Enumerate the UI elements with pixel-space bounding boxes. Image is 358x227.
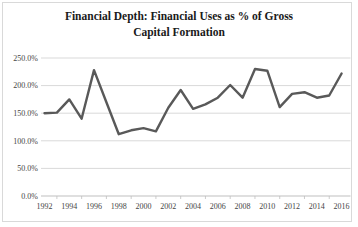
x-tick-label: 2014	[309, 202, 325, 211]
x-tick-label: 1992	[37, 202, 53, 211]
x-tick-label: 2000	[136, 202, 152, 211]
data-line	[45, 69, 342, 134]
x-tick-label: 1994	[61, 202, 77, 211]
y-tick-label: 50.0%	[17, 164, 38, 173]
x-tick-label: 1996	[86, 202, 102, 211]
x-tick-label: 2010	[259, 202, 275, 211]
chart: Financial Depth: Financial Uses as % of …	[0, 0, 358, 227]
x-tick-label: 2006	[210, 202, 226, 211]
y-tick-label: 250.0%	[13, 54, 38, 63]
x-tick-label: 2002	[160, 202, 176, 211]
y-tick-label: 200.0%	[13, 81, 38, 90]
x-tick-label: 2012	[284, 202, 300, 211]
x-tick-label: 2016	[334, 202, 350, 211]
x-tick-label: 2008	[235, 202, 251, 211]
plot-svg: 250.0%200.0%150.0%100.0%50.0%0.0%1992199…	[0, 0, 358, 227]
y-tick-label: 100.0%	[13, 137, 38, 146]
y-tick-label: 0.0%	[21, 192, 38, 201]
x-tick-label: 1998	[111, 202, 127, 211]
x-tick-label: 2004	[185, 202, 201, 211]
y-tick-label: 150.0%	[13, 109, 38, 118]
